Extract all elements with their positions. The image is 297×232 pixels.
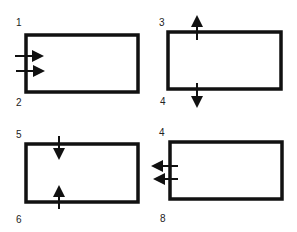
panel-4: 4 8 bbox=[153, 127, 282, 224]
panel-3-bottom-label: 6 bbox=[16, 214, 22, 225]
panel-1-box bbox=[26, 35, 138, 92]
panel-2-box bbox=[168, 32, 281, 89]
panel-1-top-label: 1 bbox=[16, 17, 22, 28]
panel-3-box bbox=[26, 144, 138, 202]
panel-3: 5 6 bbox=[16, 129, 138, 225]
panel-1: 1 2 bbox=[15, 17, 138, 108]
panel-4-top-label: 4 bbox=[159, 127, 165, 138]
diagram: 1 2 3 4 5 6 4 8 bbox=[0, 0, 297, 232]
panel-4-bottom-label: 8 bbox=[160, 213, 166, 224]
panel-1-bottom-label: 2 bbox=[16, 97, 22, 108]
panel-3-top-label: 5 bbox=[16, 129, 22, 140]
panel-4-box bbox=[170, 142, 282, 199]
diagram-canvas: 1 2 3 4 5 6 4 8 bbox=[0, 0, 297, 232]
panel-2-top-label: 3 bbox=[159, 17, 165, 28]
panel-2: 3 4 bbox=[159, 17, 281, 107]
panel-2-bottom-label: 4 bbox=[160, 96, 166, 107]
